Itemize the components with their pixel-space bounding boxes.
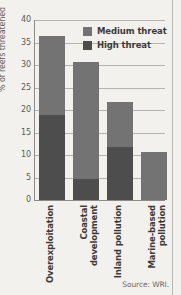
legend-label-high-threat: High threat bbox=[97, 41, 151, 50]
x-tick-label-text: Inland pollution bbox=[113, 205, 123, 287]
bar-segment-high-threat bbox=[73, 179, 99, 200]
x-tick-label-marine-based-pollution: Marine-based pollution bbox=[147, 205, 173, 287]
legend-item-high-threat[interactable]: High threat bbox=[83, 39, 167, 51]
source-note: Source: WRI. bbox=[122, 280, 169, 289]
y-tick-label-25: 25 bbox=[5, 84, 31, 92]
y-tick-label-15: 15 bbox=[5, 129, 31, 137]
gridline-40 bbox=[35, 20, 165, 21]
bar-segment-medium-threat bbox=[39, 36, 65, 115]
y-tick-label-10: 10 bbox=[5, 151, 31, 159]
bar-segment-medium-threat bbox=[107, 102, 133, 147]
y-axis-line bbox=[34, 20, 35, 201]
y-tick-label-0: 0 bbox=[5, 196, 31, 204]
bar-inland-pollution[interactable] bbox=[107, 102, 133, 200]
bar-segment-medium-threat bbox=[73, 62, 99, 179]
legend-label-medium-threat: Medium threat bbox=[97, 27, 167, 36]
bar-coastal-development[interactable] bbox=[73, 62, 99, 200]
legend-swatch-high-threat bbox=[83, 41, 92, 50]
y-axis-title: % of reefs threatened bbox=[0, 0, 7, 92]
y-tick-label-30: 30 bbox=[5, 61, 31, 69]
chart-figure: 40 35 30 25 20 15 10 5 0 % of reefs thre… bbox=[0, 0, 181, 295]
bar-segment-medium-threat bbox=[141, 152, 167, 200]
x-tick-label-overexploitation: Overexploitation bbox=[45, 205, 71, 287]
y-tick-label-5: 5 bbox=[5, 174, 31, 182]
plot-area: Medium threat High threat bbox=[35, 20, 165, 200]
legend-item-medium-threat[interactable]: Medium threat bbox=[83, 25, 167, 37]
x-tick-label-text: Overexploitation bbox=[45, 205, 55, 287]
bar-segment-high-threat bbox=[107, 147, 133, 200]
y-tick-label-20: 20 bbox=[5, 106, 31, 114]
bar-segment-high-threat bbox=[39, 115, 65, 201]
bar-marine-based-pollution[interactable] bbox=[141, 152, 167, 200]
bar-overexploitation[interactable] bbox=[39, 36, 65, 200]
x-tick-label-text: Marine-based pollution bbox=[147, 205, 167, 287]
x-tick-label-inland-pollution: Inland pollution bbox=[113, 205, 139, 287]
chart-legend: Medium threat High threat bbox=[83, 25, 167, 53]
x-tick-label-coastal-development: Coastal development bbox=[79, 205, 105, 287]
legend-swatch-medium-threat bbox=[83, 27, 92, 36]
y-tick-label-40: 40 bbox=[5, 16, 31, 24]
x-tick-label-text: Coastal development bbox=[79, 205, 99, 287]
x-axis-line bbox=[35, 200, 165, 201]
y-tick-label-35: 35 bbox=[5, 39, 31, 47]
